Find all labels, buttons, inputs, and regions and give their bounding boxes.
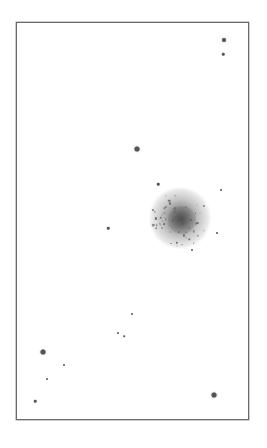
star [135,147,140,152]
star [41,350,46,355]
star [220,189,222,191]
star [222,38,226,42]
cluster-star [195,213,197,215]
star [212,393,217,398]
cluster-star [165,219,167,221]
cluster-star [181,244,183,246]
cluster-star [171,220,174,223]
cluster-star [193,230,196,233]
cluster-star [177,245,178,246]
image-frame [16,22,249,420]
cluster-star [161,220,162,221]
cluster-star [196,223,198,225]
cluster-star [170,243,172,245]
star [34,400,37,403]
cluster-star [175,211,177,213]
cluster-star [188,227,190,229]
cluster-star [185,207,187,209]
star [157,183,160,186]
star [63,364,65,366]
star [131,313,133,315]
star [222,53,225,56]
cluster-star [156,225,158,227]
star [191,249,193,251]
cluster-star [186,237,188,239]
cluster-star [155,227,157,229]
cluster-star [168,225,170,227]
star [117,332,119,334]
cluster-star [193,242,195,244]
star [46,378,48,380]
star [123,335,125,337]
star [216,232,218,234]
cluster-star [152,209,154,211]
star [107,227,110,230]
cluster-star [173,211,175,213]
cluster-star [175,216,177,218]
cluster-star [163,224,165,226]
